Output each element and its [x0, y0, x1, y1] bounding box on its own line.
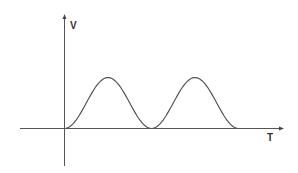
y-axis-arrow-icon	[63, 14, 67, 19]
y-axis	[63, 14, 67, 166]
x-axis-arrow-icon	[279, 127, 284, 131]
y-axis-label: V	[70, 20, 77, 31]
x-axis-label: T	[267, 132, 273, 143]
data-series-line	[65, 78, 239, 129]
voltage-time-chart: V T	[0, 0, 298, 173]
